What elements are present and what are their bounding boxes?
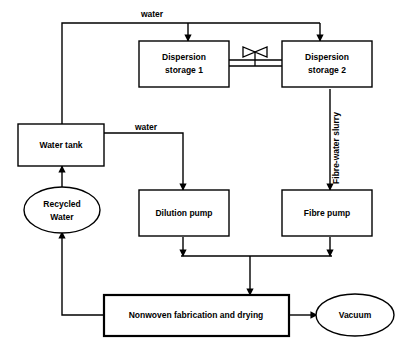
butterfly-valve [243, 47, 267, 66]
node-recycled-water-label-line1: Recycled [43, 199, 80, 209]
node-fibre-pump-label: Fibre pump [304, 208, 350, 218]
node-nonwoven-fabrication-and-drying-label: Nonwoven fabrication and drying [129, 310, 264, 320]
process-flow-diagram: Dispersion storage 1 Dispersion storage … [0, 0, 398, 348]
node-recycled-water-label-line2: Water [50, 212, 74, 222]
process-flow-diagram-canvas: Dispersion storage 1 Dispersion storage … [0, 0, 398, 348]
node-vacuum-label: Vacuum [339, 310, 372, 320]
node-dispersion-storage-1-label-line2: storage 1 [165, 65, 203, 75]
edge-water-tank-to-dilution-pump [104, 133, 183, 190]
edge-label-water-tank-outlet: water [134, 122, 158, 132]
node-water-tank[interactable]: Water tank [18, 124, 104, 166]
node-dispersion-storage-2-label-line1: Dispersion [305, 52, 349, 62]
edge-label-fibre-water-slurry: Fibre-water slurry [331, 112, 341, 184]
node-dilution-pump-label: Dilution pump [155, 208, 212, 218]
node-recycled-water[interactable]: Recycled Water [24, 187, 100, 233]
node-fibre-pump[interactable]: Fibre pump [282, 190, 372, 236]
node-dispersion-storage-2-label-line2: storage 2 [308, 65, 346, 75]
node-water-tank-label: Water tank [39, 140, 82, 150]
node-dilution-pump[interactable]: Dilution pump [139, 190, 229, 236]
edge-pumps-to-nonwoven [181, 237, 332, 295]
node-nonwoven-fabrication-and-drying[interactable]: Nonwoven fabrication and drying [104, 295, 289, 336]
node-vacuum[interactable]: Vacuum [316, 294, 394, 336]
node-dispersion-storage-1-label-line1: Dispersion [162, 52, 206, 62]
edge-label-water-top: water [140, 9, 164, 19]
node-dispersion-storage-1[interactable]: Dispersion storage 1 [139, 41, 229, 87]
node-dispersion-storage-2[interactable]: Dispersion storage 2 [282, 41, 372, 87]
edge-nonwoven-to-recycled-water [62, 232, 104, 315]
